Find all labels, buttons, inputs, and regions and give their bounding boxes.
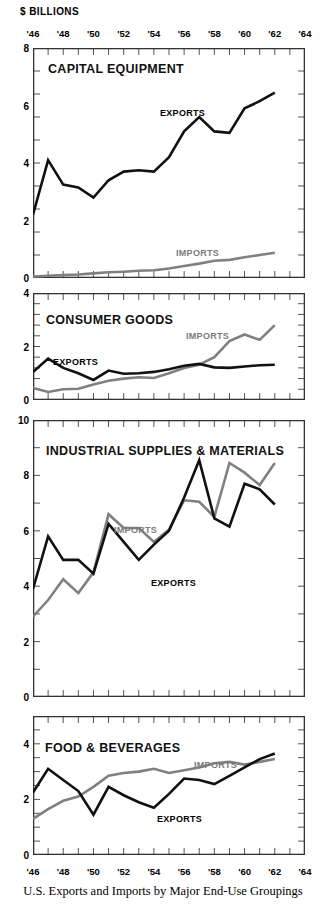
year-label-top-54: '54: [147, 28, 160, 39]
panel-food-beverages: [33, 716, 305, 855]
panel-title-industrial-supplies: INDUSTRIAL SUPPLIES & MATERIALS: [46, 444, 284, 458]
ytick-industrial-supplies-10: 10: [18, 415, 29, 426]
plot-area-consumer-goods: [33, 293, 305, 400]
year-label-top-60: '60: [238, 28, 251, 39]
year-label-top-48: '48: [57, 28, 70, 39]
ytick-food-beverages-4: 4: [23, 738, 29, 749]
year-label-top-58: '58: [208, 28, 221, 39]
year-label-bottom-54: '54: [147, 866, 160, 877]
year-label-bottom-64: '64: [299, 866, 312, 877]
year-label-bottom-46: '46: [27, 866, 40, 877]
chart-page: $ BILLIONS '46'48'50'52'54'56'58'60'62'6…: [0, 0, 326, 914]
panel-title-consumer-goods: CONSUMER GOODS: [46, 313, 173, 327]
year-label-bottom-50: '50: [87, 866, 100, 877]
year-label-top-62: '62: [268, 28, 281, 39]
ytick-capital-equipment-4: 4: [23, 158, 29, 169]
units-label: $ BILLIONS: [20, 6, 79, 17]
series-label-exports-consumer-goods: EXPORTS: [53, 357, 98, 367]
panel-title-food-beverages: FOOD & BEVERAGES: [45, 741, 180, 755]
year-label-top-46: '46: [27, 28, 40, 39]
bottom-year-axis-labels: '46'48'50'52'54'56'58'60'62'64: [0, 866, 326, 880]
series-label-exports-food-beverages: EXPORTS: [157, 814, 202, 824]
ytick-capital-equipment-2: 2: [23, 215, 29, 226]
ytick-industrial-supplies-2: 2: [23, 636, 29, 647]
ytick-capital-equipment-6: 6: [23, 100, 29, 111]
year-label-top-52: '52: [117, 28, 130, 39]
plot-area-industrial-supplies: [33, 420, 305, 697]
series-label-imports-industrial-supplies: IMPORTS: [114, 525, 157, 535]
year-label-bottom-60: '60: [238, 866, 251, 877]
panel-capital-equipment: [33, 48, 305, 278]
top-year-axis-labels: '46'48'50'52'54'56'58'60'62'64: [0, 28, 326, 42]
ytick-capital-equipment-0: 0: [23, 273, 29, 284]
ytick-food-beverages-0: 0: [23, 850, 29, 861]
panel-industrial-supplies: [33, 420, 305, 697]
series-label-exports-industrial-supplies: EXPORTS: [151, 578, 196, 588]
year-label-bottom-62: '62: [268, 866, 281, 877]
series-label-imports-capital-equipment: IMPORTS: [176, 248, 219, 258]
plot-area-capital-equipment: [33, 48, 305, 278]
ytick-industrial-supplies-0: 0: [23, 692, 29, 703]
plot-area-food-beverages: [33, 716, 305, 855]
year-label-bottom-56: '56: [178, 866, 191, 877]
ytick-industrial-supplies-6: 6: [23, 525, 29, 536]
footer-caption: U.S. Exports and Imports by Major End-Us…: [0, 884, 326, 899]
ytick-consumer-goods-2: 2: [23, 341, 29, 352]
ytick-consumer-goods-0: 0: [23, 395, 29, 406]
year-label-bottom-58: '58: [208, 866, 221, 877]
year-label-bottom-48: '48: [57, 866, 70, 877]
series-label-imports-food-beverages: IMPORTS: [194, 760, 237, 770]
ytick-food-beverages-2: 2: [23, 794, 29, 805]
ytick-industrial-supplies-8: 8: [23, 470, 29, 481]
series-label-exports-capital-equipment: EXPORTS: [160, 108, 205, 118]
ytick-consumer-goods-4: 4: [23, 288, 29, 299]
panel-title-capital-equipment: CAPITAL EQUIPMENT: [48, 62, 184, 76]
series-label-imports-consumer-goods: IMPORTS: [186, 331, 229, 341]
panel-consumer-goods: [33, 293, 305, 400]
ytick-industrial-supplies-4: 4: [23, 581, 29, 592]
year-label-top-56: '56: [178, 28, 191, 39]
year-label-top-64: '64: [299, 28, 312, 39]
ytick-capital-equipment-8: 8: [23, 43, 29, 54]
year-label-top-50: '50: [87, 28, 100, 39]
year-label-bottom-52: '52: [117, 866, 130, 877]
